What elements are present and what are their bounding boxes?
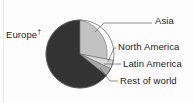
leader-line-north-america: [108, 48, 116, 62]
pie-label-rest-of-world: Rest of world: [120, 75, 177, 86]
pie-label-europe-text: Europe: [6, 29, 37, 40]
pie-label-europe: Europe†: [6, 29, 41, 40]
pie-label-europe-footnote-marker: †: [37, 28, 41, 35]
leader-line-asia: [95, 23, 152, 32]
pie-chart-figure: Europe† Asia North America Latin America…: [0, 0, 194, 103]
pie-label-latin-america: Latin America: [123, 58, 182, 69]
pie-label-asia: Asia: [155, 15, 174, 26]
pie-label-north-america: North America: [118, 41, 180, 52]
